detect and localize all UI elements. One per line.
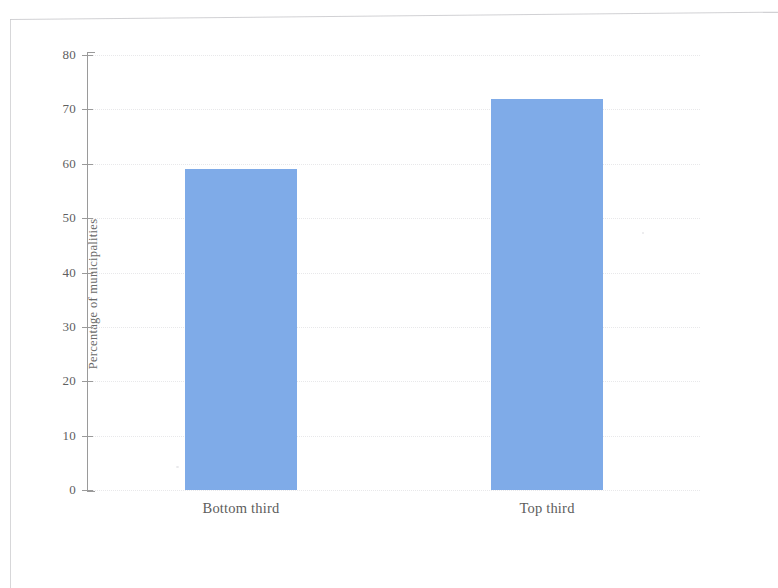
y-axis-tick: [82, 109, 93, 110]
y-axis-tick-label: 20: [50, 374, 76, 387]
y-axis-tick: [82, 327, 93, 328]
bar: [185, 169, 297, 490]
gridline: [88, 436, 700, 437]
y-axis-tick-label: 10: [50, 429, 76, 442]
gridline: [88, 109, 700, 110]
gridline: [88, 327, 700, 328]
plot-area: [88, 55, 700, 490]
y-axis-tick: [82, 164, 93, 165]
gridline: [88, 490, 700, 491]
y-axis-top-cap: [87, 52, 95, 53]
bar: [491, 99, 603, 491]
gridline: [88, 381, 700, 382]
x-axis-tick-label: Top third: [519, 500, 574, 516]
gridline: [88, 164, 700, 165]
y-axis-tick: [82, 218, 93, 219]
y-axis-tick-label: 30: [50, 320, 76, 333]
y-axis-tick: [82, 381, 93, 382]
y-axis-tick-label: 80: [50, 48, 76, 61]
y-axis-tick-label: 70: [50, 102, 76, 115]
gridline: [88, 273, 700, 274]
bar-chart: Percentage of municipalities 01020304050…: [0, 0, 778, 588]
y-axis-tick-label: 60: [50, 157, 76, 170]
gridline: [88, 55, 700, 56]
y-axis-tick-label: 40: [50, 266, 76, 279]
gridline: [88, 218, 700, 219]
x-axis-tick-label: Bottom third: [203, 500, 280, 516]
scan-speckle: [176, 466, 179, 468]
y-axis-tick-label: 0: [50, 483, 76, 496]
y-axis-bottom-cap: [87, 491, 95, 492]
y-axis-tick: [82, 273, 93, 274]
scan-speckle: [642, 232, 644, 234]
y-axis-tick: [82, 436, 93, 437]
y-axis-tick-label: 50: [50, 211, 76, 224]
y-axis-tick: [82, 55, 93, 56]
y-axis-tick: [82, 490, 93, 491]
